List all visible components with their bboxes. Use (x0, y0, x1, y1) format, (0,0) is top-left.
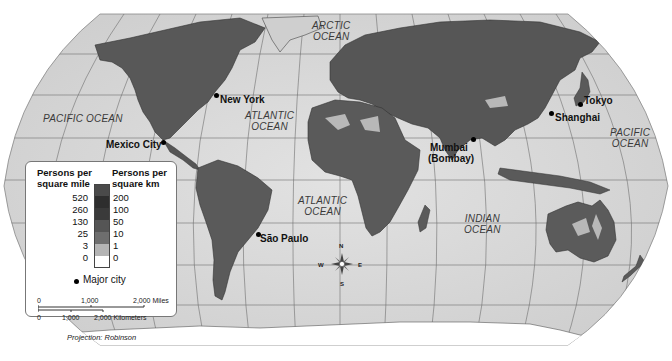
ocean-label-line: ARCTIC (312, 20, 350, 31)
city-label-mexico-city: Mexico City (106, 139, 162, 150)
city-alt-name: (Bombay) (428, 153, 474, 164)
legend-mile-value: 25 (66, 228, 88, 239)
legend-header-line: Persons per (112, 167, 167, 178)
city-label-sao-paulo: São Paulo (260, 233, 308, 244)
ocean-label-line: PACIFIC (610, 127, 650, 138)
legend-km-value: 10 (113, 228, 124, 239)
city-label-tokyo: Tokyo (584, 95, 613, 106)
legend-km-value: 1 (113, 240, 118, 251)
legend-swatch-4 (94, 232, 110, 244)
scale-miles-2000: 2,000 Miles (133, 297, 169, 305)
legend-km-value: 50 (113, 216, 124, 227)
compass-n: N (339, 243, 343, 249)
city-marker-new-york (214, 93, 219, 98)
scale-km-1000: 1,000 (62, 314, 80, 322)
city-marker-tokyo (578, 102, 583, 107)
city-label-mumbai: Mumbai (Bombay) (430, 142, 474, 164)
compass-s: S (340, 281, 344, 287)
projection-label: Projection: Robinson (67, 333, 136, 342)
legend-mile-value: 520 (66, 192, 88, 203)
scale-bar (38, 305, 146, 313)
legend-major-city-label: Major city (83, 274, 126, 285)
ocean-label-line: OCEAN (610, 138, 650, 149)
legend-km-value: 200 (113, 192, 129, 203)
ocean-label-line: ATLANTIC (298, 195, 347, 206)
legend-header-mile: Persons per square mile (37, 167, 92, 189)
ocean-label-indian: INDIAN OCEAN (464, 213, 501, 235)
ocean-label-atlantic-north: ATLANTIC OCEAN (245, 110, 294, 132)
city-marker-shanghai (549, 111, 554, 116)
city-label-shanghai: Shanghai (555, 112, 600, 123)
ocean-label-line: PACIFIC OCEAN (43, 113, 123, 124)
legend-city-marker-icon (74, 279, 79, 284)
legend-header-line: square km (112, 178, 167, 189)
legend-header-line: square mile (37, 178, 92, 189)
ocean-label-line: ATLANTIC (245, 110, 294, 121)
legend-swatch-1 (94, 196, 110, 208)
legend-header-line: Persons per (37, 167, 92, 178)
legend-swatch-3 (94, 220, 110, 232)
ocean-label-pacific-west: PACIFIC OCEAN (43, 113, 123, 124)
legend-header-km: Persons per square km (112, 167, 167, 189)
legend-mile-value: 130 (66, 216, 88, 227)
ocean-label-line: INDIAN (464, 213, 501, 224)
legend-swatch-0 (94, 184, 110, 196)
legend-mile-value: 3 (66, 240, 88, 251)
ocean-label-line: OCEAN (298, 206, 347, 217)
legend-km-value: 100 (113, 204, 129, 215)
ocean-label-arctic: ARCTIC OCEAN (312, 20, 350, 42)
legend-swatch-6 (94, 256, 110, 268)
scale-miles-0: 0 (37, 297, 41, 305)
city-label-new-york: New York (220, 94, 265, 105)
ocean-label-line: OCEAN (464, 224, 501, 235)
scale-miles-1000: 1,000 (81, 297, 99, 305)
city-name: Mumbai (430, 142, 474, 153)
scale-km-2000: 2,000 Kilometers (94, 314, 147, 322)
ocean-label-pacific-east: PACIFIC OCEAN (610, 127, 650, 149)
legend-swatch-5 (94, 244, 110, 256)
compass-rose-icon (330, 252, 354, 276)
ocean-label-atlantic-south: ATLANTIC OCEAN (298, 195, 347, 217)
compass-w: W (318, 262, 324, 268)
legend-mile-value: 0 (66, 252, 88, 263)
scale-km-0: 0 (37, 314, 41, 322)
legend-mile-value: 260 (66, 204, 88, 215)
legend-km-value: 0 (113, 252, 118, 263)
compass-e: E (358, 262, 362, 268)
ocean-label-line: OCEAN (312, 31, 350, 42)
ocean-label-line: OCEAN (245, 121, 294, 132)
legend-swatch-2 (94, 208, 110, 220)
